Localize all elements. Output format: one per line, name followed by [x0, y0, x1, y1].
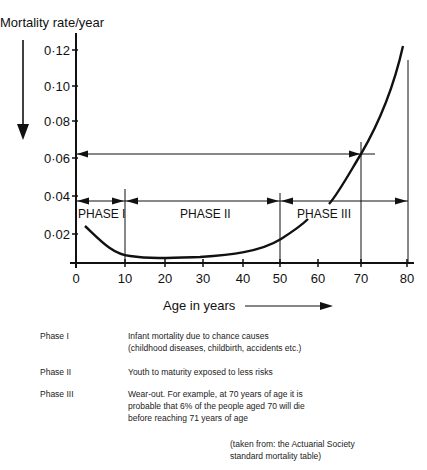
- reference-lines: [125, 60, 408, 263]
- mortality-curve: [85, 219, 308, 258]
- x-tick-label: 30: [196, 271, 210, 286]
- phase-divider-arrows: [76, 198, 408, 205]
- mortality-chart: Mortality rate/year 0·12 0·10 0·08 0·06 …: [0, 0, 427, 320]
- x-tick-label: 10: [118, 271, 132, 286]
- source-line: (taken from: the Actuarial Society: [230, 438, 355, 450]
- y-tick-label: 0·12: [44, 43, 70, 58]
- source-line: standard mortality table): [230, 450, 355, 462]
- note-text: Youth to maturity exposed to less risks: [128, 366, 420, 378]
- phase-3-label: PHASE III: [297, 207, 351, 221]
- y-tick-label: 0·10: [44, 79, 70, 94]
- x-tick-label: 20: [158, 271, 172, 286]
- x-tick-label: 60: [311, 271, 325, 286]
- note-text: before reaching 71 years of age: [128, 412, 420, 424]
- y-direction-arrow-icon: [17, 40, 29, 140]
- x-direction-arrow-icon: [245, 302, 333, 310]
- x-tick-label: 0: [72, 271, 79, 286]
- mortality-curve-upper: [329, 46, 403, 204]
- phase-1-label: PHASE I: [78, 207, 125, 221]
- note-phase-3: Phase III Wear-out. For example, at 70 y…: [40, 388, 420, 424]
- x-tick-label: 50: [273, 271, 287, 286]
- note-key: Phase I: [40, 330, 110, 342]
- phase-notes: Phase I Infant mortality due to chance c…: [40, 330, 420, 424]
- rate-at-70-arrow: [76, 151, 375, 158]
- y-tick-label: 0·08: [44, 114, 70, 129]
- note-phase-2: Phase II Youth to maturity exposed to le…: [40, 366, 420, 388]
- x-tick-label: 80: [400, 271, 414, 286]
- y-axis-title: Mortality rate/year: [0, 15, 105, 30]
- x-tick-label: 70: [354, 271, 368, 286]
- note-key: Phase III: [40, 388, 110, 400]
- note-phase-1: Phase I Infant mortality due to chance c…: [40, 330, 420, 366]
- note-text: Infant mortality due to chance causes: [128, 330, 420, 342]
- x-axis-title: Age in years: [163, 298, 236, 313]
- note-text: (childhood diseases, childbirth, acciden…: [128, 342, 420, 354]
- y-tick-label: 0·02: [44, 227, 70, 242]
- source-citation: (taken from: the Actuarial Society stand…: [230, 438, 355, 462]
- x-tick-label: 40: [236, 271, 250, 286]
- note-text: Wear-out. For example, at 70 years of ag…: [128, 388, 420, 400]
- note-text: probable that 6% of the people aged 70 w…: [128, 400, 420, 412]
- y-tick-label: 0·04: [44, 189, 70, 204]
- phase-2-label: PHASE II: [180, 207, 231, 221]
- note-key: Phase II: [40, 366, 110, 378]
- y-tick-label: 0·06: [44, 151, 70, 166]
